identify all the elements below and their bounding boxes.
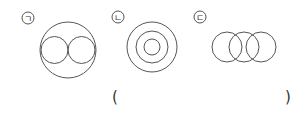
figure-nieun [127,22,177,72]
answer-open-paren: ( [112,88,118,106]
figure-giyeok [40,22,96,78]
svg-text:ㄴ: ㄴ [114,13,122,23]
label-digeut: ㄷ [194,11,206,23]
figure-digeut [212,32,276,62]
label-giyeok: ㄱ [22,12,34,24]
svg-text:ㄷ: ㄷ [196,13,204,23]
figures-canvas: ㄱ ㄴ ㄷ [0,0,297,116]
label-nieun: ㄴ [112,11,124,23]
answer-close-paren: ) [285,88,291,106]
svg-text:ㄱ: ㄱ [24,14,32,24]
